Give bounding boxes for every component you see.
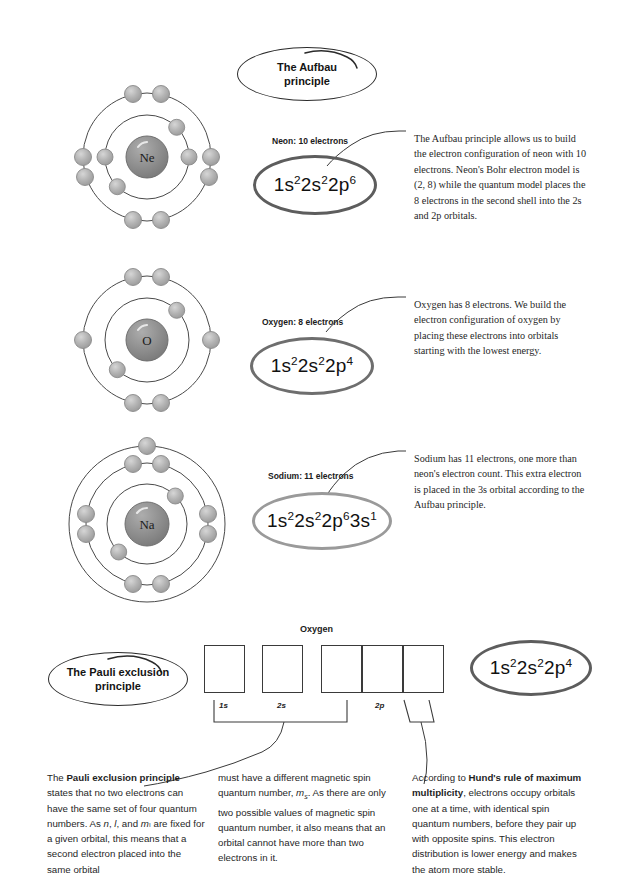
nucleus-label-oxygen: O xyxy=(142,333,151,348)
orbital-diagram-title: Oxygen xyxy=(300,624,333,634)
config-text-neon: 1s22s22p6 xyxy=(274,173,357,196)
footer-column-pauli-continued: must have a different magnetic spin quan… xyxy=(218,770,386,866)
caption-sodium: Sodium: 11 electrons xyxy=(268,471,354,481)
config-text-orbital-result: 1s22s22p4 xyxy=(490,656,573,679)
orbital-box-2p-3 xyxy=(403,645,444,693)
nucleus-label-neon: Ne xyxy=(139,150,154,165)
orbital-label-1s: 1s xyxy=(219,701,228,710)
worksheet-page: Ne O Na The Aufbau principle Neon: 10 el… xyxy=(0,0,628,894)
aufbau-title-line1: The Aufbau xyxy=(277,60,337,74)
aufbau-title-line2: principle xyxy=(277,74,337,88)
pauli-title-line1: The Pauli exclusion xyxy=(67,665,170,679)
caption-neon: Neon: 10 electrons xyxy=(272,136,348,146)
orbital-box-2p-1 xyxy=(321,645,362,693)
config-bubble-neon: 1s22s22p6 xyxy=(253,155,377,215)
nucleus-label-sodium: Na xyxy=(139,517,154,532)
config-bubble-oxygen: 1s22s22p4 xyxy=(250,337,374,395)
paragraph-neon: The Aufbau principle allows us to build … xyxy=(414,131,590,223)
caption-oxygen: Oxygen: 8 electrons xyxy=(262,317,343,327)
aufbau-title-bubble: The Aufbau principle xyxy=(237,47,377,101)
orbital-label-2p: 2p xyxy=(375,701,384,710)
footer-pauli-bold: Pauli exclusion principle xyxy=(66,772,180,783)
footer-pauli-before: The xyxy=(47,772,66,783)
pauli-title-line2: principle xyxy=(67,679,170,693)
bracket-hund xyxy=(404,700,434,722)
pauli-title-bubble: The Pauli exclusion principle xyxy=(48,652,188,706)
config-bubble-sodium: 1s22s22p63s1 xyxy=(252,492,392,550)
footer-column-pauli: The Pauli exclusion principle states tha… xyxy=(47,770,205,877)
paragraph-oxygen: Oxygen has 8 electrons. We build the ele… xyxy=(414,297,590,359)
footer-pauli-after: states that no two electrons can have th… xyxy=(47,787,205,874)
footer-column-hund: According to Hund's rule of maximum mult… xyxy=(412,770,584,877)
footer-pauli-cont-text: must have a different magnetic spin quan… xyxy=(218,772,386,863)
footer-hund-after: , electrons occupy orbitals one at a tim… xyxy=(412,787,577,874)
orbital-box-2s xyxy=(262,645,303,693)
config-text-oxygen: 1s22s22p4 xyxy=(271,354,354,377)
footer-hund-before: According to xyxy=(412,772,469,783)
orbital-box-2p-2 xyxy=(362,645,403,693)
config-bubble-orbital-result: 1s22s22p4 xyxy=(470,640,592,696)
orbital-box-1s xyxy=(204,645,245,693)
orbital-label-2s: 2s xyxy=(277,701,286,710)
paragraph-sodium: Sodium has 11 electrons, one more than n… xyxy=(414,451,590,513)
config-text-sodium: 1s22s22p63s1 xyxy=(267,509,377,532)
